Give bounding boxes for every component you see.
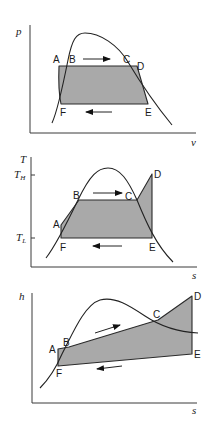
pv-point-b: B xyxy=(69,54,76,65)
ts-point-f: F xyxy=(60,242,66,253)
hs-point-c: C xyxy=(153,309,160,320)
pv-cycle-area xyxy=(59,66,148,104)
pv-y-label: p xyxy=(15,25,22,37)
hs-arrow-left xyxy=(97,366,122,369)
ts-point-b: B xyxy=(73,190,80,201)
pv-point-c: C xyxy=(123,54,130,65)
hs-point-b: B xyxy=(63,337,70,348)
hs-y-label: h xyxy=(19,290,25,302)
hs-diagram: h s A B C D E F xyxy=(19,290,201,416)
ts-y-label: T xyxy=(20,153,27,165)
hs-point-d: D xyxy=(194,291,201,302)
ts-x-label: s xyxy=(192,269,196,281)
pv-diagram: p v A B C D E F xyxy=(15,25,196,148)
figure-canvas: p v A B C D E F T s TH TL A B xyxy=(0,0,213,428)
pv-point-d: D xyxy=(137,61,144,72)
pv-point-a: A xyxy=(53,54,60,65)
hs-point-f: F xyxy=(56,368,62,379)
hs-cycle-area xyxy=(58,296,192,366)
hs-point-e: E xyxy=(194,349,201,360)
pv-point-e: E xyxy=(145,107,152,118)
ts-point-c: C xyxy=(125,191,132,202)
ts-point-a: A xyxy=(53,219,60,230)
ts-th-label: TH xyxy=(14,168,26,182)
thermo-cycle-figure: p v A B C D E F T s TH TL A B xyxy=(0,0,213,428)
ts-point-d: D xyxy=(154,169,161,180)
pv-x-label: v xyxy=(191,136,196,148)
ts-diagram: T s TH TL A B C D E F xyxy=(14,153,197,281)
hs-x-label: s xyxy=(192,404,196,416)
ts-tl-label: TL xyxy=(16,231,26,245)
ts-point-e: E xyxy=(149,242,156,253)
hs-arrow-right xyxy=(95,325,120,333)
pv-point-f: F xyxy=(60,107,66,118)
hs-point-a: A xyxy=(49,344,56,355)
